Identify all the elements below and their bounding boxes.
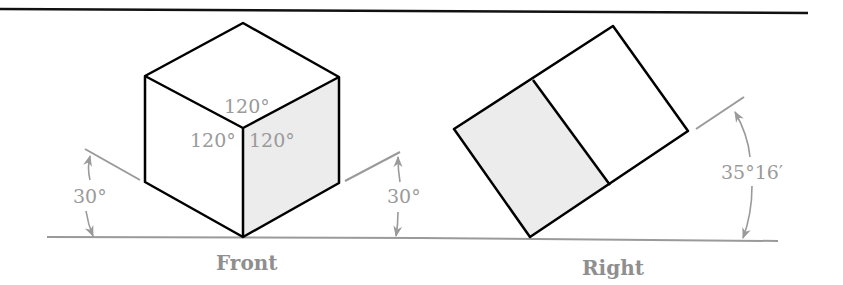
front-right-30-line — [345, 152, 400, 181]
right-30-arrow-down — [396, 212, 398, 236]
right-30-label: 30° — [387, 185, 421, 207]
right-view: 35°16′ Right — [420, 26, 783, 280]
front-caption: Front — [216, 251, 278, 275]
right-caption: Right — [582, 256, 645, 280]
isometric-diagram: 120° 120° 120° 30° 30° Front 35°16′ Righ… — [0, 0, 843, 285]
tilt-angle-label: 35°16′ — [721, 161, 783, 183]
right-ground-line — [420, 238, 778, 241]
top-rule — [0, 9, 808, 13]
right-30-arrow-up — [398, 157, 400, 182]
left-30-arrow-up — [89, 156, 91, 180]
tilt-arrow-up — [735, 112, 750, 157]
angle-label-right: 120° — [249, 129, 295, 151]
front-left-30-line — [85, 149, 140, 180]
front-view: 120° 120° 120° 30° 30° Front — [47, 23, 421, 275]
tilt-arrow-down — [743, 186, 752, 238]
right-view-shaded-face — [454, 80, 610, 237]
left-30-label: 30° — [73, 185, 107, 207]
angle-label-top: 120° — [224, 95, 270, 117]
angle-label-left: 120° — [190, 129, 236, 151]
left-30-arrow-down — [86, 211, 93, 236]
right-tilt-line — [696, 97, 744, 129]
front-ground-line — [47, 237, 420, 238]
